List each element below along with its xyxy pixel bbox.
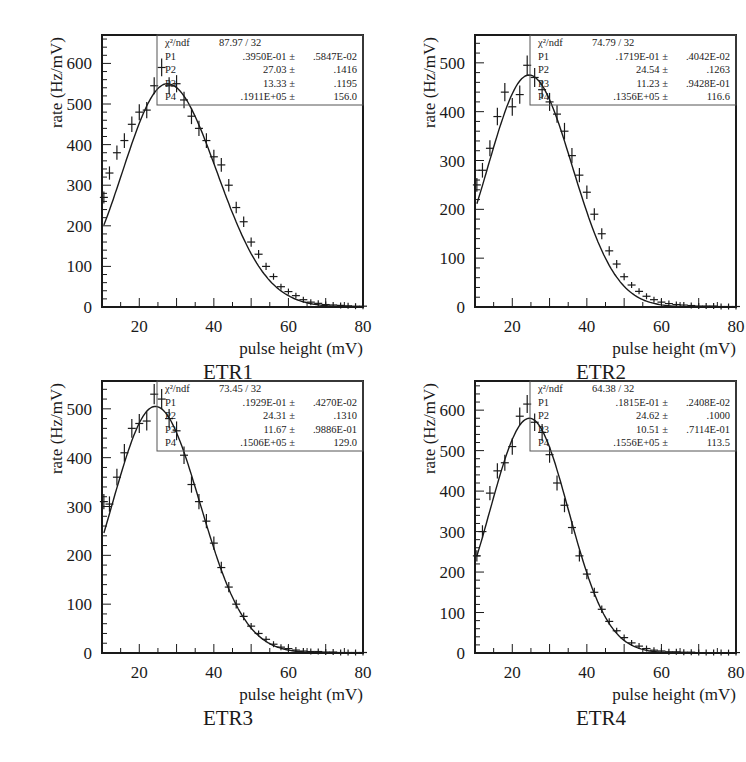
data-point: [493, 108, 501, 125]
data-point: [717, 650, 725, 656]
data-point: [710, 650, 718, 656]
data-point: [247, 237, 255, 246]
chi2-label: χ²/ndf: [164, 383, 190, 394]
param-value: 24.31 ±: [263, 410, 295, 421]
data-point: [128, 117, 136, 133]
param-error: .1195: [334, 78, 357, 89]
data-point: [344, 650, 352, 656]
y-tick-label: 300: [440, 152, 466, 171]
data-point: [299, 297, 307, 303]
data-point: [635, 643, 643, 649]
param-value: .1556E+05 ±: [613, 437, 668, 448]
fit-curve: [104, 406, 363, 653]
chart-panel-etr2: 010020030040050020406080pulse height (mV…: [373, 0, 746, 381]
data-point: [560, 123, 568, 140]
y-tick-label: 300: [67, 498, 93, 517]
data-point: [583, 186, 591, 199]
data-point: [337, 650, 345, 656]
data-point: [322, 649, 330, 655]
fit-stats-box: χ²/ndf64.38 / 32P1.1815E-01 ±.2408E-02P2…: [530, 381, 736, 451]
fit-curve: [477, 418, 736, 653]
data-point: [255, 250, 263, 258]
data-point: [605, 246, 613, 255]
param-error: .1416: [333, 64, 357, 75]
x-tick-label: 80: [728, 663, 745, 682]
param-value: .3950E-01 ±: [243, 51, 296, 62]
data-point: [232, 202, 240, 213]
fit-stats-box: χ²/ndf74.79 / 32P1.1719E-01 ±.4042E-02P2…: [530, 35, 736, 105]
fit-curve: [104, 84, 363, 307]
data-point: [695, 303, 703, 309]
x-tick-label: 40: [578, 317, 595, 336]
param-name: P4: [165, 91, 177, 102]
data-point: [695, 650, 703, 656]
x-tick-label: 60: [653, 663, 670, 682]
param-name: P3: [538, 78, 549, 89]
param-name: P1: [165, 397, 176, 408]
chi2-value: 73.45 / 32: [219, 383, 261, 394]
param-value: 11.67 ±: [263, 424, 295, 435]
x-axis-title: pulse height (mV): [612, 685, 736, 704]
param-value: 24.62 ±: [636, 410, 668, 421]
data-point: [120, 444, 128, 462]
fit-stats-box: χ²/ndf87.97 / 32P1.3950E-01 ±.5847E-02P2…: [157, 35, 363, 105]
data-point: [486, 140, 494, 156]
data-point: [217, 158, 225, 172]
data-point: [210, 150, 218, 164]
data-point: [553, 105, 561, 122]
chart-svg: 010020030040050060020406080pulse height …: [373, 346, 746, 727]
data-point: [262, 636, 270, 642]
x-tick-label: 80: [355, 317, 372, 336]
data-point: [352, 303, 360, 309]
data-point: [680, 649, 688, 655]
param-value: .1719E-01 ±: [616, 51, 669, 62]
y-tick-label: 400: [440, 103, 466, 122]
y-axis-title: rate (Hz/mV): [420, 383, 439, 474]
param-name: P3: [165, 424, 176, 435]
y-axis-title: rate (Hz/mV): [47, 37, 66, 128]
data-point: [732, 304, 740, 310]
y-tick-label: 500: [440, 54, 466, 73]
param-name: P1: [165, 51, 176, 62]
y-tick-label: 500: [440, 442, 466, 461]
x-tick-label: 20: [504, 663, 521, 682]
y-tick-label: 0: [457, 298, 466, 317]
param-value: .1911E+05 ±: [241, 91, 296, 102]
data-point: [628, 282, 636, 288]
param-error: .9886E-01: [313, 424, 357, 435]
data-point: [590, 588, 598, 597]
param-name: P1: [538, 51, 549, 62]
x-tick-label: 60: [280, 317, 297, 336]
data-point: [702, 650, 710, 656]
data-point: [590, 208, 598, 220]
param-error: .1310: [333, 410, 357, 421]
data-point: [613, 260, 621, 268]
param-name: P2: [538, 64, 549, 75]
data-point: [583, 569, 591, 579]
data-point: [635, 288, 643, 294]
data-point: [187, 476, 195, 492]
x-tick-label: 40: [205, 317, 222, 336]
param-value: 10.51 ±: [636, 424, 668, 435]
param-name: P2: [165, 410, 176, 421]
chart-panel-etr1: 010020030040050060020406080pulse height …: [0, 0, 373, 381]
y-axis-title: rate (Hz/mV): [47, 383, 66, 474]
data-point: [225, 179, 233, 192]
y-tick-label: 0: [84, 298, 93, 317]
y-tick-label: 300: [67, 176, 93, 195]
param-error: .4042E-02: [686, 51, 730, 62]
y-tick-label: 500: [67, 400, 93, 419]
param-value: .1815E-01 ±: [616, 397, 669, 408]
data-point: [180, 92, 188, 109]
fit-curve: [477, 75, 736, 307]
data-point: [613, 628, 621, 634]
data-point: [508, 438, 516, 454]
param-error: .1000: [706, 410, 730, 421]
param-error: .1263: [706, 64, 730, 75]
param-value: 27.03 ±: [263, 64, 295, 75]
data-point: [620, 635, 628, 641]
y-tick-label: 100: [440, 249, 466, 268]
param-name: P1: [538, 397, 549, 408]
data-point: [732, 650, 740, 656]
data-point: [105, 166, 113, 179]
